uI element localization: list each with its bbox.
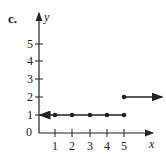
y-tick-label: 2 — [27, 91, 33, 103]
origin-label: 0 — [26, 126, 32, 138]
y-tick-label: 3 — [27, 73, 33, 85]
x-tick-label: 3 — [87, 140, 93, 152]
x-tick-label: 1 — [52, 140, 58, 152]
y-axis-label: y — [44, 11, 49, 23]
y-tick-label: 1 — [27, 109, 33, 121]
y-tick-label: 4 — [27, 55, 33, 67]
dot-y2 — [122, 95, 127, 100]
step-function-graph — [0, 0, 166, 154]
x-tick-label: 4 — [104, 140, 110, 152]
x-axis-label: x — [149, 138, 154, 150]
x-tick-label: 2 — [69, 140, 75, 152]
y-tick-label: 5 — [27, 38, 33, 50]
x-tick-label: 5 — [121, 140, 127, 152]
